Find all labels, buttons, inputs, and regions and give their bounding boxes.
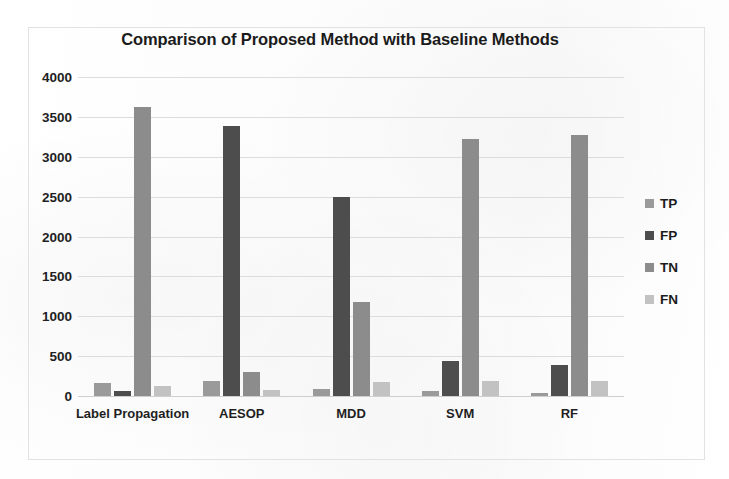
bar-group: SVM xyxy=(406,77,515,396)
bar-fn xyxy=(154,386,171,396)
legend-swatch-icon xyxy=(645,263,654,272)
bar-tp xyxy=(531,393,548,396)
y-axis-tick-label: 0 xyxy=(12,389,72,404)
bar-fp xyxy=(551,365,568,396)
legend-item-fn[interactable]: FN xyxy=(645,292,678,307)
x-axis-category-label: MDD xyxy=(291,405,411,423)
y-axis-tick-label: 2500 xyxy=(12,189,72,204)
bar-tp xyxy=(313,389,330,396)
legend-item-tp[interactable]: TP xyxy=(645,196,678,211)
chart-legend: TPFPTNFN xyxy=(645,196,678,307)
bar-fp xyxy=(333,197,350,396)
legend-item-fp[interactable]: FP xyxy=(645,228,678,243)
bar-groups: Label PropagationAESOPMDDSVMRF xyxy=(78,77,624,396)
x-axis-category-label: Label Propagation xyxy=(73,405,193,423)
legend-swatch-icon xyxy=(645,295,654,304)
gridline xyxy=(78,396,624,397)
bar-fn xyxy=(373,382,390,396)
bar-tn xyxy=(571,135,588,396)
legend-label: FP xyxy=(660,228,677,243)
bar-fp xyxy=(442,361,459,396)
y-axis-tick-label: 1000 xyxy=(12,309,72,324)
chart-title: Comparison of Proposed Method with Basel… xyxy=(60,30,620,49)
plot-area: Label PropagationAESOPMDDSVMRF xyxy=(78,77,624,396)
bar-fp xyxy=(114,391,131,396)
bar-tp xyxy=(422,391,439,396)
legend-item-tn[interactable]: TN xyxy=(645,260,678,275)
chart-page: Comparison of Proposed Method with Basel… xyxy=(0,0,729,479)
bar-tn xyxy=(462,139,479,396)
bar-group: RF xyxy=(515,77,624,396)
legend-label: TP xyxy=(660,196,677,211)
bar-fn xyxy=(263,390,280,396)
x-axis-category-label: RF xyxy=(509,405,629,423)
x-axis-category-label: AESOP xyxy=(182,405,302,423)
bar-fn xyxy=(482,381,499,396)
bar-tp xyxy=(203,381,220,396)
bar-tn xyxy=(134,107,151,396)
bar-fn xyxy=(591,381,608,396)
legend-swatch-icon xyxy=(645,199,654,208)
bar-tp xyxy=(94,383,111,396)
y-axis-tick-label: 3000 xyxy=(12,149,72,164)
x-axis-category-label: SVM xyxy=(400,405,520,423)
y-axis-tick-label: 1500 xyxy=(12,269,72,284)
bar-fp xyxy=(223,126,240,396)
legend-swatch-icon xyxy=(645,231,654,240)
bar-tn xyxy=(243,372,260,396)
bar-group: AESOP xyxy=(187,77,296,396)
bar-group: Label Propagation xyxy=(78,77,187,396)
y-axis-tick-label: 4000 xyxy=(12,70,72,85)
bar-group: MDD xyxy=(296,77,405,396)
bar-tn xyxy=(353,302,370,396)
y-axis-tick-label: 2000 xyxy=(12,229,72,244)
y-axis-tick-label: 3500 xyxy=(12,109,72,124)
legend-label: FN xyxy=(660,292,678,307)
y-axis-tick-label: 500 xyxy=(12,349,72,364)
legend-label: TN xyxy=(660,260,678,275)
